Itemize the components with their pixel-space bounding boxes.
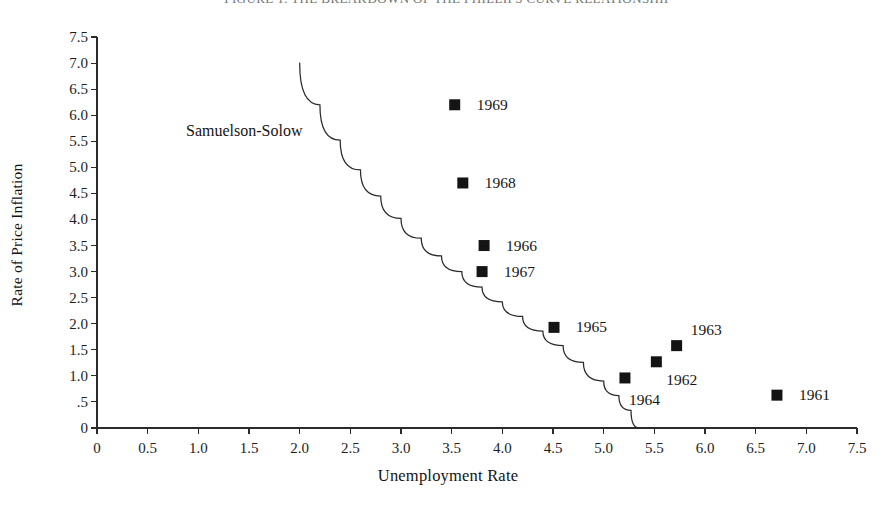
y-axis-title: Rate of Price Inflation bbox=[8, 120, 26, 350]
y-tick-label: 5.0 bbox=[46, 159, 88, 176]
plot-area bbox=[0, 0, 896, 508]
y-tick-label: 3.0 bbox=[46, 263, 88, 280]
data-point-label: 1966 bbox=[506, 237, 537, 255]
x-tick-label: 0.5 bbox=[138, 440, 157, 457]
data-point-marker bbox=[457, 177, 468, 188]
axis-ticks bbox=[91, 37, 857, 434]
x-tick-label: 1.0 bbox=[189, 440, 208, 457]
samuelson-solow-curve bbox=[300, 63, 639, 428]
data-point-marker bbox=[651, 356, 662, 367]
data-point-markers bbox=[449, 99, 782, 400]
y-tick-label: 2.0 bbox=[46, 315, 88, 332]
x-tick-label: 1.5 bbox=[240, 440, 259, 457]
data-point-marker bbox=[619, 372, 630, 383]
y-tick-label: .5 bbox=[46, 393, 88, 410]
data-point-label: 1962 bbox=[666, 371, 697, 389]
y-tick-label: 4.5 bbox=[46, 185, 88, 202]
data-point-marker bbox=[671, 340, 682, 351]
x-tick-label: 2.0 bbox=[290, 440, 309, 457]
x-tick-label: 7.0 bbox=[797, 440, 816, 457]
y-tick-label: 1.0 bbox=[46, 367, 88, 384]
data-point-marker bbox=[549, 322, 560, 333]
data-point-label: 1963 bbox=[691, 321, 722, 339]
data-point-marker bbox=[479, 240, 490, 251]
y-tick-label: 2.5 bbox=[46, 289, 88, 306]
data-point-label: 1968 bbox=[485, 174, 516, 192]
data-point-label: 1967 bbox=[504, 263, 535, 281]
chart-figure: FIGURE 1. THE BREAKDOWN OF THE PHILLIPS … bbox=[0, 0, 896, 508]
y-tick-label: 1.5 bbox=[46, 341, 88, 358]
data-point-marker bbox=[477, 266, 488, 277]
y-tick-label: 7.5 bbox=[46, 29, 88, 46]
x-tick-label: 6.0 bbox=[696, 440, 715, 457]
x-tick-label: 7.5 bbox=[848, 440, 867, 457]
x-tick-label: 3.5 bbox=[442, 440, 461, 457]
y-tick-label: 5.5 bbox=[46, 133, 88, 150]
y-tick-label: 6.5 bbox=[46, 81, 88, 98]
x-tick-label: 6.5 bbox=[746, 440, 765, 457]
y-tick-label: 6.0 bbox=[46, 107, 88, 124]
x-tick-label: 3.0 bbox=[392, 440, 411, 457]
data-point-marker bbox=[449, 99, 460, 110]
x-tick-label: 4.5 bbox=[544, 440, 563, 457]
x-tick-label: 5.5 bbox=[645, 440, 664, 457]
data-point-label: 1965 bbox=[576, 318, 607, 336]
data-point-label: 1964 bbox=[629, 391, 660, 409]
data-point-label: 1961 bbox=[799, 386, 830, 404]
x-tick-label: 5.0 bbox=[594, 440, 613, 457]
data-point-marker bbox=[771, 390, 782, 401]
y-tick-label: 0 bbox=[46, 420, 88, 437]
y-tick-label: 3.5 bbox=[46, 237, 88, 254]
x-axis-title: Unemployment Rate bbox=[0, 466, 896, 486]
y-tick-label: 7.0 bbox=[46, 55, 88, 72]
x-tick-label: 4.0 bbox=[493, 440, 512, 457]
x-tick-label: 2.5 bbox=[341, 440, 360, 457]
x-tick-label: 0 bbox=[93, 440, 101, 457]
data-point-label: 1969 bbox=[477, 96, 508, 114]
curve-annotation-label: Samuelson-Solow bbox=[186, 122, 302, 140]
y-tick-label: 4.0 bbox=[46, 211, 88, 228]
